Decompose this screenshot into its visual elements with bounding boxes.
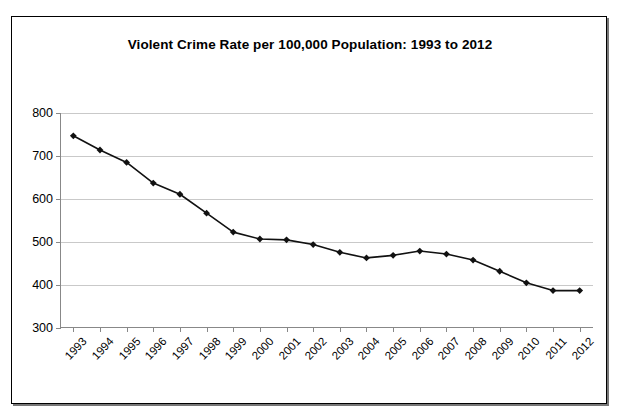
x-axis-tick-label: 2004 xyxy=(356,335,382,362)
y-axis-tick-label: 500 xyxy=(32,235,53,249)
x-axis-tick-label: 1996 xyxy=(143,335,169,362)
x-axis-tick-mark xyxy=(153,327,154,332)
y-axis-tick-mark xyxy=(56,113,61,114)
x-axis-tick-label: 2003 xyxy=(329,335,355,362)
gridline xyxy=(60,113,593,114)
plot-area: 300400500600700800 199319941995199619971… xyxy=(60,113,593,328)
y-axis-line xyxy=(60,113,61,328)
x-axis-tick-label: 2002 xyxy=(303,335,329,362)
data-point-marker xyxy=(203,210,210,217)
data-point-marker xyxy=(576,287,583,294)
x-axis-tick-label: 1997 xyxy=(169,335,195,362)
x-axis-tick-mark xyxy=(580,327,581,332)
x-axis-tick-label: 2009 xyxy=(489,335,515,362)
data-line xyxy=(73,136,579,291)
x-axis-tick-mark xyxy=(553,327,554,332)
y-axis-tick-label: 600 xyxy=(32,192,53,206)
x-axis-tick-mark xyxy=(73,327,74,332)
gridline xyxy=(60,156,593,157)
data-point-marker xyxy=(496,268,503,275)
data-point-marker xyxy=(550,287,557,294)
x-axis-tick-mark xyxy=(393,327,394,332)
data-point-marker xyxy=(416,248,423,255)
x-axis-tick-label: 2008 xyxy=(463,335,489,362)
x-axis-tick-label: 2012 xyxy=(569,335,595,362)
x-axis-tick-label: 1993 xyxy=(63,335,89,362)
x-axis-tick-label: 1994 xyxy=(90,335,116,362)
data-point-marker xyxy=(336,249,343,256)
x-axis-tick-mark xyxy=(446,327,447,332)
y-axis-tick-mark xyxy=(56,285,61,286)
x-axis-tick-label: 2011 xyxy=(543,335,569,361)
x-axis-tick-mark xyxy=(473,327,474,332)
x-axis-line xyxy=(60,327,593,328)
x-axis-tick-mark xyxy=(420,327,421,332)
data-point-marker xyxy=(97,147,104,154)
x-axis-tick-label: 1998 xyxy=(196,335,222,362)
chart-title: Violent Crime Rate per 100,000 Populatio… xyxy=(12,37,608,52)
x-axis-tick-mark xyxy=(180,327,181,332)
data-point-marker xyxy=(123,159,130,166)
x-axis-tick-mark xyxy=(287,327,288,332)
data-point-marker xyxy=(177,191,184,198)
y-axis-tick-label: 700 xyxy=(32,149,53,163)
x-axis-tick-label: 2001 xyxy=(276,335,302,362)
y-axis-tick-mark xyxy=(56,328,61,329)
data-point-marker xyxy=(390,252,397,259)
y-axis-tick-mark xyxy=(56,199,61,200)
x-axis-tick-label: 2010 xyxy=(516,335,542,362)
x-axis-tick-mark xyxy=(313,327,314,332)
gridline xyxy=(60,285,593,286)
x-axis-tick-label: 2000 xyxy=(249,335,275,362)
gridline xyxy=(60,242,593,243)
x-axis-tick-label: 1999 xyxy=(223,335,249,362)
x-axis-tick-label: 2005 xyxy=(383,335,409,362)
x-axis-tick-mark xyxy=(100,327,101,332)
x-axis-tick-mark xyxy=(500,327,501,332)
data-point-marker xyxy=(70,132,77,139)
y-axis-tick-mark xyxy=(56,242,61,243)
data-point-marker xyxy=(230,229,237,236)
x-axis-tick-label: 2006 xyxy=(409,335,435,362)
x-axis-tick-mark xyxy=(340,327,341,332)
x-axis-tick-mark xyxy=(260,327,261,332)
data-series-violent-crime-rate xyxy=(60,113,593,328)
gridline xyxy=(60,199,593,200)
data-point-marker xyxy=(443,251,450,258)
x-axis-tick-label: 2007 xyxy=(436,335,462,362)
x-axis-tick-mark xyxy=(526,327,527,332)
data-point-marker xyxy=(470,257,477,264)
screenshot-root: Violent Crime Rate per 100,000 Populatio… xyxy=(0,0,619,418)
x-axis-tick-label: 1995 xyxy=(116,335,142,362)
x-axis-tick-mark xyxy=(366,327,367,332)
data-point-marker xyxy=(363,255,370,262)
y-axis-tick-mark xyxy=(56,156,61,157)
x-axis-tick-mark xyxy=(207,327,208,332)
chart-figure-frame: Violent Crime Rate per 100,000 Populatio… xyxy=(11,16,607,404)
x-axis-tick-mark xyxy=(127,327,128,332)
x-axis-tick-mark xyxy=(233,327,234,332)
y-axis-tick-label: 300 xyxy=(32,321,53,335)
y-axis-tick-label: 800 xyxy=(32,106,53,120)
y-axis-tick-label: 400 xyxy=(32,278,53,292)
data-point-marker xyxy=(150,180,157,187)
